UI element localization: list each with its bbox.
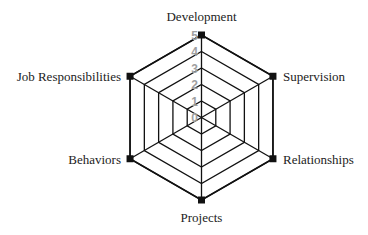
radial-tick-label: 3: [191, 62, 198, 76]
axis-spokes: [130, 35, 273, 200]
radial-tick-label: 2: [191, 78, 198, 92]
data-point-marker: [269, 73, 276, 80]
category-label-supervision: Supervision: [283, 69, 346, 84]
category-label-job-responsibilities: Job Responsibilities: [17, 69, 121, 84]
data-point-marker: [127, 155, 134, 162]
category-label-development: Development: [166, 9, 236, 24]
axis-spoke: [202, 118, 273, 159]
data-point-marker: [198, 197, 205, 204]
category-label-relationships: Relationships: [283, 152, 354, 167]
radial-tick-label: 0: [191, 111, 198, 125]
category-label-behaviors: Behaviors: [68, 152, 121, 167]
axis-spoke: [202, 76, 273, 117]
category-labels: DevelopmentSupervisionRelationshipsProje…: [17, 9, 354, 225]
radar-chart: 012345 DevelopmentSupervisionRelationshi…: [0, 0, 368, 235]
data-point-marker: [127, 73, 134, 80]
radar-chart-svg: 012345 DevelopmentSupervisionRelationshi…: [0, 0, 368, 235]
radial-tick-label: 5: [191, 29, 198, 43]
radial-tick-labels: 012345: [191, 29, 198, 126]
data-point-marker: [198, 32, 205, 39]
radial-tick-label: 4: [191, 45, 198, 59]
radial-tick-label: 1: [191, 95, 198, 109]
category-label-projects: Projects: [181, 210, 223, 225]
data-point-marker: [269, 155, 276, 162]
